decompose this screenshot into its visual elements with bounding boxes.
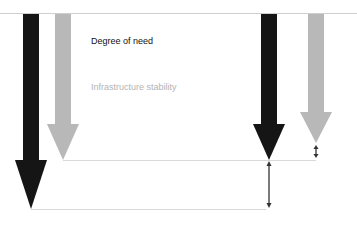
gap-comparison-diagram: [0, 0, 357, 238]
left-stability-arrow-icon: [47, 14, 79, 160]
right-need-arrow-icon: [253, 14, 285, 160]
small-gap-double-arrow-icon: [314, 145, 319, 158]
infrastructure-stability-label: Infrastructure stability: [91, 82, 177, 92]
left-need-arrow-icon: [15, 14, 47, 209]
right-stability-arrow-icon: [300, 14, 332, 143]
degree-of-need-label: Degree of need: [91, 36, 153, 46]
large-gap-double-arrow-icon: [267, 161, 272, 208]
